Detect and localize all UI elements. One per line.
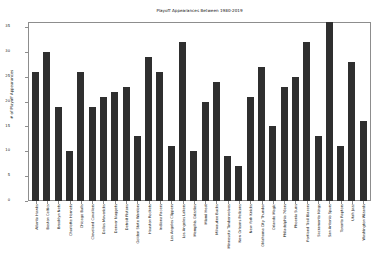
y-axis: # of Playoff Appearances 05101520253035 xyxy=(0,0,28,265)
x-tick-label: Golden State Warriors xyxy=(137,204,141,244)
bar[interactable] xyxy=(247,97,254,201)
bar-slot xyxy=(120,22,131,201)
bar[interactable] xyxy=(89,107,96,201)
bar-slot xyxy=(188,22,199,201)
x-tick-slot: Phoenix Suns xyxy=(290,201,301,265)
bar-slot xyxy=(143,22,154,201)
x-tick-slot: Golden State Warriors xyxy=(132,201,143,265)
bar[interactable] xyxy=(66,151,73,201)
x-tick-label: Chicago Bulls xyxy=(81,204,85,228)
bar-slot xyxy=(30,22,41,201)
bar-slot xyxy=(290,22,301,201)
y-tick-label: 20 xyxy=(0,100,10,104)
y-tick-label: 30 xyxy=(0,50,10,54)
x-tick-label: Indiana Pacers xyxy=(160,204,164,230)
bar[interactable] xyxy=(43,52,50,201)
x-tick-slot: New York Knicks xyxy=(245,201,256,265)
x-tick-label: Utah Jazz xyxy=(352,204,356,221)
x-tick-label: Toronto Raptors xyxy=(341,204,345,232)
x-tick-slot: Houston Rockets xyxy=(143,201,154,265)
bar-slot xyxy=(109,22,120,201)
x-tick-label: Houston Rockets xyxy=(149,204,153,234)
bar-slot xyxy=(211,22,222,201)
x-tick-slot: Los Angeles Lakers xyxy=(177,201,188,265)
x-tick-slot: Memphis Grizzlies xyxy=(188,201,199,265)
bar[interactable] xyxy=(315,136,322,201)
bar-series xyxy=(28,22,371,201)
x-tick-label: Phoenix Suns xyxy=(295,204,299,228)
x-tick-label: Washington Wizards xyxy=(363,204,367,240)
y-tick-label: 35 xyxy=(0,25,10,29)
bar[interactable] xyxy=(179,42,186,201)
bar-slot xyxy=(98,22,109,201)
x-axis: Atlanta HawksBoston CelticsBrooklyn Nets… xyxy=(28,201,371,265)
bar[interactable] xyxy=(156,72,163,201)
bar[interactable] xyxy=(292,77,299,201)
x-tick-slot: Orlando Magic xyxy=(267,201,278,265)
chart-figure: Playoff Appearances Between 1980-2019 # … xyxy=(0,0,388,265)
x-tick-label: Orlando Magic xyxy=(273,204,277,230)
bar[interactable] xyxy=(269,126,276,201)
x-tick-label: Atlanta Hawks xyxy=(36,204,40,230)
bar[interactable] xyxy=(258,67,265,201)
x-tick-label: New Orleans Pelicans xyxy=(239,204,243,243)
x-tick-label: Philadelphia 76ers xyxy=(284,204,288,237)
y-tick-label: 0 xyxy=(0,199,10,203)
x-tick-slot: Portland Trail Blazers xyxy=(301,201,312,265)
x-tick-label: Oklahoma City Thunder xyxy=(262,204,266,247)
bar-slot xyxy=(279,22,290,201)
bar-slot xyxy=(166,22,177,201)
x-tick-slot: Atlanta Hawks xyxy=(30,201,41,265)
bar[interactable] xyxy=(32,72,39,201)
bar[interactable] xyxy=(326,22,333,201)
x-tick-slot: Philadelphia 76ers xyxy=(279,201,290,265)
bar[interactable] xyxy=(55,107,62,201)
bar[interactable] xyxy=(134,136,141,201)
bar[interactable] xyxy=(337,146,344,201)
x-tick-label: Boston Celtics xyxy=(47,204,51,230)
bar-slot xyxy=(256,22,267,201)
bar[interactable] xyxy=(281,87,288,201)
y-tick-label: 15 xyxy=(0,125,10,129)
x-tick-slot: Utah Jazz xyxy=(346,201,357,265)
bar[interactable] xyxy=(202,102,209,201)
bar-slot xyxy=(267,22,278,201)
bar[interactable] xyxy=(213,82,220,201)
bar[interactable] xyxy=(100,97,107,201)
bar[interactable] xyxy=(168,146,175,201)
x-tick-slot: Dallas Mavericks xyxy=(98,201,109,265)
x-tick-slot: Toronto Raptors xyxy=(335,201,346,265)
x-tick-slot: Cleveland Cavaliers xyxy=(86,201,97,265)
x-tick-label: Detroit Pistons xyxy=(126,204,130,230)
bar[interactable] xyxy=(190,151,197,201)
x-tick-label: New York Knicks xyxy=(250,204,254,233)
y-axis-label: # of Playoff Appearances xyxy=(10,51,15,137)
x-tick-label: Brooklyn Nets xyxy=(58,204,62,229)
bar-slot xyxy=(53,22,64,201)
bar[interactable] xyxy=(235,166,242,201)
bar[interactable] xyxy=(77,72,84,201)
x-tick-slot: Oklahoma City Thunder xyxy=(256,201,267,265)
bar-slot xyxy=(177,22,188,201)
bar[interactable] xyxy=(145,57,152,201)
chart-title: Playoff Appearances Between 1980-2019 xyxy=(28,8,371,13)
x-tick-slot: Brooklyn Nets xyxy=(53,201,64,265)
bar[interactable] xyxy=(111,92,118,201)
bar[interactable] xyxy=(360,121,367,201)
bar[interactable] xyxy=(224,156,231,201)
bar[interactable] xyxy=(123,87,130,201)
x-tick-label: Los Angeles Lakers xyxy=(183,204,187,238)
x-tick-slot: Sacramento Kings xyxy=(312,201,323,265)
bar-slot xyxy=(199,22,210,201)
x-tick-label: Cleveland Cavaliers xyxy=(92,204,96,240)
x-tick-label: Dallas Mavericks xyxy=(103,204,107,234)
x-tick-slot: Detroit Pistons xyxy=(120,201,131,265)
bar-slot xyxy=(335,22,346,201)
bar[interactable] xyxy=(348,62,355,201)
bar-slot xyxy=(75,22,86,201)
bar[interactable] xyxy=(303,42,310,201)
x-tick-slot: Washington Wizards xyxy=(358,201,369,265)
bar-slot xyxy=(346,22,357,201)
bar-slot xyxy=(41,22,52,201)
x-tick-label: Los Angeles Clippers xyxy=(171,204,175,241)
